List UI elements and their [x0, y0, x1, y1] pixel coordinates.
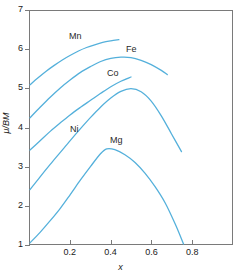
x-tick-mark — [151, 240, 152, 245]
curve-ni — [30, 89, 182, 190]
curve-label-mg: Mg — [110, 136, 123, 145]
y-tick-label: 6 — [0, 44, 30, 53]
curve-mn — [30, 40, 119, 85]
x-axis-title: x — [0, 262, 241, 272]
y-tick-label: 7 — [0, 5, 30, 14]
y-axis-title: μ/BM — [1, 93, 11, 153]
y-axis-title-text: μ/BM — [1, 113, 11, 134]
chart-figure: 1234567 μ/BM MnFeCoNiMg 0.20.40.60.8 x — [0, 0, 241, 278]
x-tick-label: 0.4 — [91, 248, 131, 257]
x-tick-label: 0.6 — [131, 248, 171, 257]
curve-label-ni: Ni — [70, 125, 79, 134]
x-tick-label: 0.8 — [172, 248, 212, 257]
x-tick-label: 0.2 — [50, 248, 90, 257]
x-tick-mark — [70, 240, 71, 245]
y-tick-label: 1 — [0, 240, 30, 249]
curve-label-co: Co — [107, 69, 119, 78]
curve-label-mn: Mn — [69, 32, 82, 41]
y-tick-label: 2 — [0, 201, 30, 210]
y-tick-label: 5 — [0, 83, 30, 92]
curve-label-fe: Fe — [126, 45, 137, 54]
y-tick-label: 3 — [0, 162, 30, 171]
curve-mg — [30, 149, 184, 244]
x-tick-mark — [192, 240, 193, 245]
x-tick-mark — [111, 240, 112, 245]
x-axis-title-text: x — [118, 262, 123, 272]
